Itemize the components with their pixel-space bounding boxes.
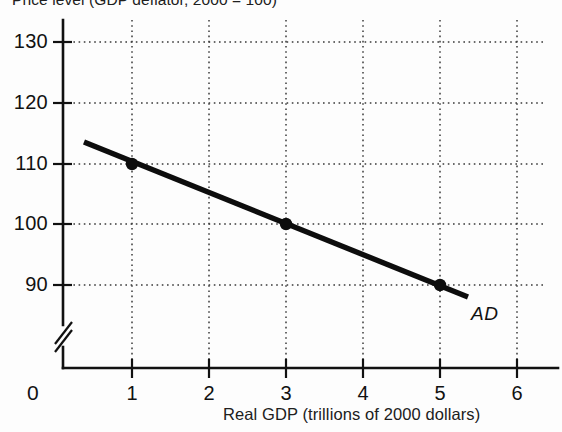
- ad-curve-label: AD: [471, 303, 498, 325]
- plot-area: [0, 0, 562, 432]
- x-tick-label-2: 2: [194, 382, 224, 405]
- x-tick-label-1: 1: [117, 382, 147, 405]
- data-point: [280, 218, 292, 230]
- origin-label: 0: [27, 381, 39, 405]
- data-point: [434, 279, 446, 291]
- ad-curve: [84, 142, 468, 297]
- y-tick-label-90: 90: [0, 273, 48, 296]
- vertical-gridlines: [132, 20, 517, 366]
- x-tick-label-3: 3: [271, 382, 301, 405]
- y-tick-label-130: 130: [0, 30, 48, 53]
- y-tick-label-120: 120: [0, 91, 48, 114]
- y-tick-label-110: 110: [0, 152, 48, 175]
- chart-figure: Price level (GDP deflator, 2000 = 100): [0, 0, 562, 432]
- x-tick-label-4: 4: [348, 382, 378, 405]
- y-tick-label-100: 100: [0, 212, 48, 235]
- x-axis-title: Real GDP (trillions of 2000 dollars): [223, 405, 480, 424]
- x-tick-label-6: 6: [502, 382, 532, 405]
- data-point: [126, 158, 138, 170]
- x-tick-label-5: 5: [425, 382, 455, 405]
